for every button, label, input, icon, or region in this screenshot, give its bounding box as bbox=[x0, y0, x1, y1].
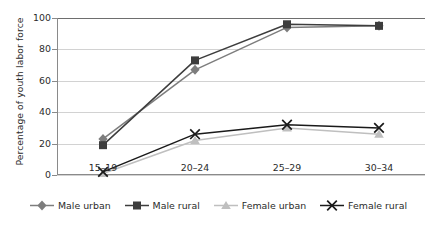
y-tick-label-0: 0 bbox=[19, 169, 51, 180]
y-tick-label-60: 60 bbox=[19, 75, 51, 86]
y-axis-title: Percentage of youth labor force bbox=[14, 7, 25, 177]
series-male-urban bbox=[98, 21, 383, 144]
plot-area: 020406080100 bbox=[57, 18, 425, 175]
diamond-marker-icon bbox=[29, 200, 55, 211]
x-tick-label-1: 20–24 bbox=[160, 162, 230, 173]
y-tick-label-40: 40 bbox=[19, 106, 51, 117]
x-tick-label-0: 15–19 bbox=[68, 162, 138, 173]
y-tick-label-100: 100 bbox=[19, 12, 51, 23]
series-female-urban bbox=[98, 123, 384, 177]
x-tick-label-2: 25–29 bbox=[252, 162, 322, 173]
legend-label-3: Female rural bbox=[348, 200, 407, 211]
chart-legend: Male urbanMale ruralFemale urbanFemale r… bbox=[0, 200, 436, 211]
legend-label-1: Male rural bbox=[153, 200, 200, 211]
legend-item-female-urban[interactable]: Female urban bbox=[213, 200, 306, 211]
y-tick-label-80: 80 bbox=[19, 43, 51, 54]
x-marker-icon bbox=[319, 200, 345, 211]
legend-item-female-rural[interactable]: Female rural bbox=[319, 200, 407, 211]
y-tick-mark-0 bbox=[52, 175, 57, 176]
square-marker-icon bbox=[124, 200, 150, 211]
legend-item-male-rural[interactable]: Male rural bbox=[124, 200, 200, 211]
triangle-marker-icon bbox=[213, 200, 239, 211]
data-series-layer bbox=[57, 18, 425, 175]
gridline-0 bbox=[57, 175, 425, 176]
youth-labor-force-line-chart: Percentage of youth labor force 02040608… bbox=[0, 0, 436, 227]
series-female-rural bbox=[98, 120, 384, 177]
legend-item-male-urban[interactable]: Male urban bbox=[29, 200, 111, 211]
legend-label-0: Male urban bbox=[58, 200, 111, 211]
x-tick-label-3: 30–34 bbox=[344, 162, 414, 173]
y-tick-label-20: 20 bbox=[19, 138, 51, 149]
legend-label-2: Female urban bbox=[242, 200, 306, 211]
